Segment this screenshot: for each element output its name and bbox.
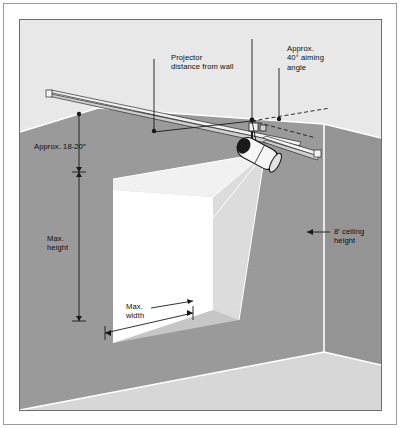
aiming-angle-line1: Approx. bbox=[287, 44, 314, 53]
label-ceiling-height: 8′ ceilingheight bbox=[334, 227, 364, 246]
figure-frame: Projectordistance from wall Approx.40° a… bbox=[19, 19, 382, 411]
room-perspective-scene bbox=[20, 20, 381, 410]
max-height-line1: Max. bbox=[47, 234, 64, 243]
projector-distance-line2: distance from wall bbox=[171, 62, 234, 71]
label-mounting-drop: Approx. 18-20″ bbox=[34, 142, 86, 151]
aiming-angle-line2: 40° aiming bbox=[287, 53, 324, 62]
label-aiming-angle: Approx.40° aimingangle bbox=[287, 44, 324, 72]
label-max-height: Max.height bbox=[47, 234, 68, 253]
max-width-line1: Max. bbox=[126, 302, 143, 311]
ceiling-height-line2: height bbox=[334, 236, 355, 245]
projector-distance-line1: Projector bbox=[171, 53, 202, 62]
label-max-width: Max.width bbox=[126, 302, 144, 321]
max-width-line2: width bbox=[126, 311, 144, 320]
label-projector-distance: Projectordistance from wall bbox=[171, 53, 234, 72]
max-height-line2: height bbox=[47, 243, 68, 252]
projector-placement-figure: Projectordistance from wall Approx.40° a… bbox=[0, 0, 401, 429]
aiming-angle-line3: angle bbox=[287, 63, 306, 72]
ceiling-height-line1: 8′ ceiling bbox=[334, 227, 364, 236]
